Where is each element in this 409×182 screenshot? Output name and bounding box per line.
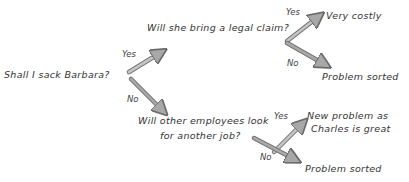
edge-label-q2-no: No <box>287 58 299 68</box>
outcome-new-problem-line1: New problem as <box>307 110 388 121</box>
node-root-question: Shall I sack Barbara? <box>4 69 110 80</box>
edge-label-q3-no: No <box>260 152 272 162</box>
edge-label-q1-no: No <box>127 94 139 104</box>
outcome-problem-sorted-1: Problem sorted <box>322 71 399 82</box>
outcome-new-problem-line2: Charles is great <box>311 123 391 134</box>
outcome-problem-sorted-2: Problem sorted <box>305 163 382 174</box>
edge-label-q1-yes: Yes <box>122 49 136 59</box>
node-employees-question-line1: Will other employees look <box>138 115 269 126</box>
node-legal-claim-question: Will she bring a legal claim? <box>147 22 289 33</box>
edge-label-q3-yes: Yes <box>274 111 288 121</box>
node-employees-question-line2: for another job? <box>160 130 241 141</box>
outcome-very-costly: Very costly <box>326 10 382 21</box>
edge-label-q2-yes: Yes <box>286 7 300 17</box>
